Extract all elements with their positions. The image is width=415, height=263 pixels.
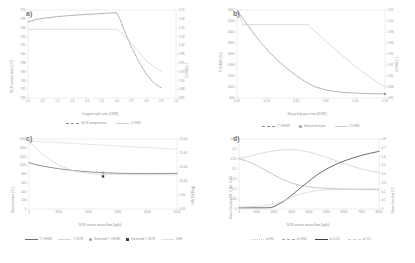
panel-d: d) Mass fraction H2, CH4, CO2 Mass fract… [207, 131, 415, 263]
svg-text:0.1: 0.1 [382, 198, 387, 202]
svg-text:1.00: 1.00 [388, 19, 394, 23]
svg-text:1600: 1600 [228, 52, 235, 56]
legend-item: Selected T CHGR [89, 237, 120, 241]
svg-text:740: 740 [20, 52, 25, 56]
svg-text:0.95: 0.95 [179, 61, 185, 65]
svg-text:0.7: 0.7 [129, 99, 134, 103]
svg-text:0.4: 0.4 [382, 172, 387, 176]
svg-text:0.1: 0.1 [41, 99, 46, 103]
panel-b-legend: T CHGR Selected value CO/H2 [207, 124, 415, 128]
svg-text:1000: 1000 [253, 210, 260, 214]
svg-text:1200: 1200 [20, 155, 27, 159]
svg-text:1000: 1000 [228, 85, 235, 89]
panel-a: a) SCR temperature [°C] CO/H2 [-] Oxygen… [0, 0, 207, 131]
panel-d-plot: 0.350.30.250.20.150.10.050 0.80.70.60.50… [207, 131, 415, 223]
svg-text:732: 732 [20, 87, 25, 91]
panel-c-label: c) [26, 135, 32, 142]
panel-b-ylabel: T CHGR [°C] [219, 52, 223, 72]
legend-label: CO/H2 [350, 124, 360, 128]
svg-text:25.00: 25.00 [180, 137, 188, 141]
svg-text:0.2: 0.2 [232, 167, 237, 171]
panel-d-y2label: Mass fraction CO [391, 187, 395, 213]
svg-text:2000: 2000 [85, 210, 92, 214]
svg-text:0.2: 0.2 [55, 99, 60, 103]
svg-text:0.0: 0.0 [26, 99, 31, 103]
svg-text:744: 744 [20, 35, 25, 39]
legend-item: T CHGR [25, 237, 53, 241]
svg-text:0.88: 0.88 [388, 85, 394, 89]
legend-item: T SCR [58, 237, 83, 241]
svg-text:1.10: 1.10 [179, 8, 185, 12]
legend-label: T CHGR [40, 237, 53, 241]
svg-text:0.50: 0.50 [382, 99, 388, 103]
svg-text:3000: 3000 [114, 210, 121, 214]
legend-item: Selected T SCR [126, 237, 155, 241]
panel-c-ylabel: Temperature [°C] [11, 187, 15, 213]
svg-text:0.8: 0.8 [382, 137, 387, 141]
svg-text:15.00: 15.00 [180, 165, 188, 169]
svg-text:3000: 3000 [288, 210, 295, 214]
svg-text:0.90: 0.90 [388, 74, 394, 78]
svg-text:0: 0 [25, 207, 27, 211]
svg-text:0.10: 0.10 [264, 99, 270, 103]
svg-text:0.3: 0.3 [70, 99, 75, 103]
svg-text:8000: 8000 [376, 210, 383, 214]
panel-c-xlabel: SOS steam mass flow [kg/h] [30, 223, 170, 227]
legend-item: CO/H2 [335, 124, 360, 128]
svg-text:7000: 7000 [358, 210, 365, 214]
svg-text:1.04: 1.04 [388, 8, 394, 12]
svg-text:5000: 5000 [174, 210, 181, 214]
legend-label: T SCR [73, 237, 83, 241]
svg-text:0.3: 0.3 [232, 147, 237, 151]
legend-label: w CO2 [330, 237, 340, 241]
svg-text:0.7: 0.7 [382, 146, 387, 150]
panel-b-y2label: CO/H2 [-] [395, 58, 399, 72]
svg-text:0.98: 0.98 [388, 30, 394, 34]
legend-label: w H2 [266, 237, 274, 241]
figure-container: a) SCR temperature [°C] CO/H2 [-] Oxygen… [0, 0, 415, 263]
svg-text:6000: 6000 [341, 210, 348, 214]
svg-text:0.90: 0.90 [179, 79, 185, 83]
legend-label: Selected T SCR [131, 237, 155, 241]
svg-text:0.25: 0.25 [230, 157, 236, 161]
legend-label: Selected value [304, 124, 326, 128]
legend-label: T CHGR [277, 124, 290, 128]
svg-text:20.00: 20.00 [180, 151, 188, 155]
svg-text:1000: 1000 [55, 210, 62, 214]
svg-text:5.00: 5.00 [180, 193, 186, 197]
panel-b: b) T CHGR [°C] CO/H2 [-] Recycling gas r… [207, 0, 415, 131]
panel-a-ylabel: SCR temperature [°C] [10, 60, 14, 93]
svg-text:738: 738 [20, 61, 25, 65]
panel-d-xlabel: SCR steam mass flow [kg/h] [233, 223, 383, 227]
svg-text:4000: 4000 [306, 210, 313, 214]
svg-text:0.6: 0.6 [115, 99, 120, 103]
svg-text:742: 742 [20, 43, 25, 47]
svg-text:0.6: 0.6 [382, 155, 387, 159]
legend-item: w CH4 [282, 237, 307, 241]
svg-text:0.40: 0.40 [352, 99, 358, 103]
svg-text:1800: 1800 [228, 41, 235, 45]
panel-b-label: b) [233, 10, 240, 17]
panel-d-legend: w H2 w CH4 w CO2 w CO [207, 237, 415, 241]
svg-text:0.88: 0.88 [179, 87, 185, 91]
svg-text:1.0: 1.0 [174, 99, 179, 103]
panel-c: c) Temperature [°C] LHV [MJ/kg] SOS stea… [0, 131, 207, 263]
svg-text:746: 746 [20, 26, 25, 30]
svg-text:0.92: 0.92 [388, 63, 394, 67]
legend-item: w CO2 [315, 237, 340, 241]
svg-text:736: 736 [20, 70, 25, 74]
svg-text:4000: 4000 [144, 210, 151, 214]
legend-item: LHV [161, 237, 182, 241]
svg-text:0.80: 0.80 [388, 96, 394, 100]
svg-text:0.93: 0.93 [179, 70, 185, 74]
svg-text:1000: 1000 [20, 163, 27, 167]
legend-item: SCR temperature [66, 121, 107, 125]
panel-a-xlabel: Oxygen split ratio [OSR] [30, 112, 170, 116]
svg-text:5000: 5000 [323, 210, 330, 214]
svg-text:750: 750 [20, 8, 25, 12]
svg-text:200: 200 [21, 198, 26, 202]
panel-c-y2label: LHV [MJ/kg] [191, 187, 195, 205]
panel-c-plot: 16001400120010008006004002000 25.0020.00… [0, 131, 207, 223]
legend-item: T CHGR [262, 124, 290, 128]
svg-text:2000: 2000 [271, 210, 278, 214]
